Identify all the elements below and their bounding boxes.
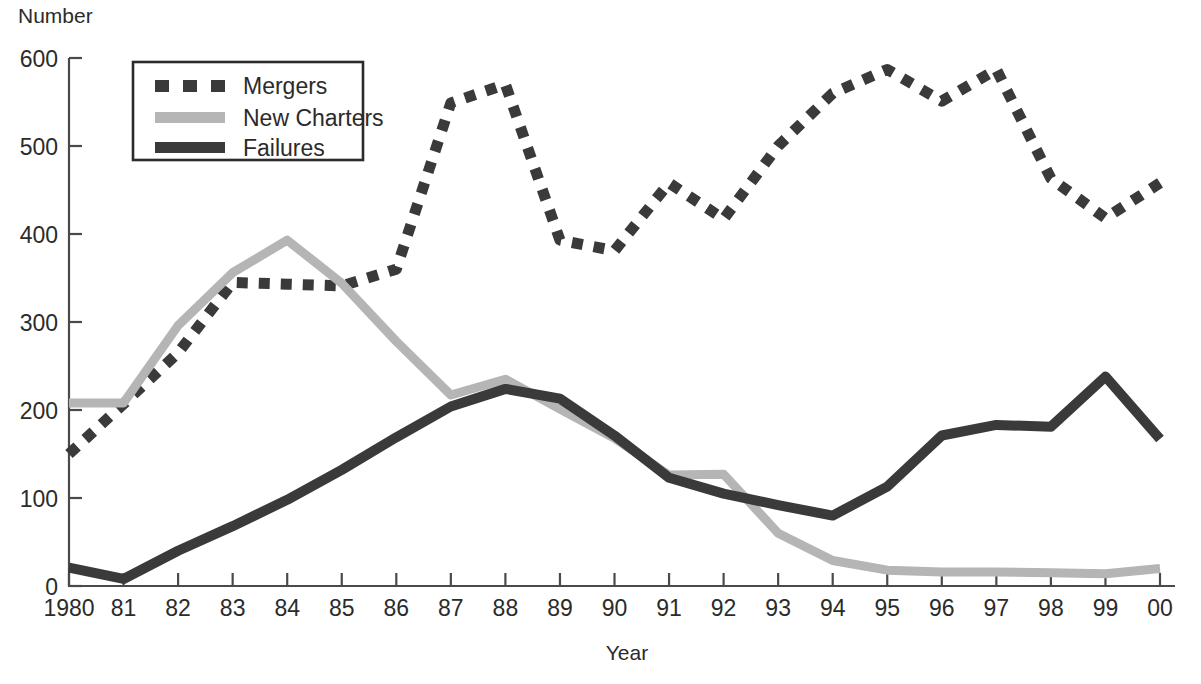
y-tick-label: 500 bbox=[20, 134, 58, 160]
x-tick-label: 1980 bbox=[43, 595, 94, 621]
x-tick-label: 87 bbox=[438, 595, 464, 621]
x-tick-label: 97 bbox=[984, 595, 1010, 621]
y-tick-label: 100 bbox=[20, 486, 58, 512]
y-axis-tick-labels: 0100200300400500600 bbox=[20, 46, 58, 600]
y-axis-ticks bbox=[69, 58, 82, 586]
chart-container: Number 0100200300400500600 1980818283848… bbox=[0, 0, 1201, 684]
x-tick-label: 95 bbox=[874, 595, 900, 621]
y-tick-label: 300 bbox=[20, 310, 58, 336]
legend-label-mergers: Mergers bbox=[243, 73, 327, 99]
legend-label-failures: Failures bbox=[243, 135, 325, 161]
x-tick-label: 88 bbox=[493, 595, 519, 621]
x-axis-title: Year bbox=[606, 641, 648, 664]
series-line-failures bbox=[69, 377, 1160, 579]
chart-legend: MergersNew ChartersFailures bbox=[133, 62, 384, 161]
x-tick-label: 94 bbox=[820, 595, 846, 621]
legend-swatch-dashed bbox=[183, 80, 197, 92]
x-tick-label: 96 bbox=[929, 595, 955, 621]
x-tick-label: 86 bbox=[384, 595, 410, 621]
legend-swatch-dashed bbox=[211, 80, 225, 92]
legend-swatch-dashed bbox=[155, 80, 169, 92]
x-tick-label: 93 bbox=[765, 595, 791, 621]
x-tick-label: 91 bbox=[656, 595, 682, 621]
x-tick-label: 81 bbox=[111, 595, 137, 621]
x-tick-label: 98 bbox=[1038, 595, 1064, 621]
legend-swatch-failures bbox=[155, 142, 225, 153]
line-chart: Number 0100200300400500600 1980818283848… bbox=[0, 0, 1201, 684]
x-tick-label: 85 bbox=[329, 595, 355, 621]
y-tick-label: 600 bbox=[20, 46, 58, 72]
x-tick-label: 82 bbox=[165, 595, 191, 621]
x-tick-label: 83 bbox=[220, 595, 246, 621]
legend-label-new-charters: New Charters bbox=[243, 105, 384, 131]
y-axis-title: Number bbox=[18, 4, 93, 27]
y-tick-label: 400 bbox=[20, 222, 58, 248]
y-tick-label: 200 bbox=[20, 398, 58, 424]
x-tick-label: 99 bbox=[1093, 595, 1119, 621]
x-tick-label: 89 bbox=[547, 595, 573, 621]
x-axis-tick-labels: 1980818283848586878889909192939495969798… bbox=[43, 595, 1172, 621]
x-tick-label: 84 bbox=[274, 595, 300, 621]
x-tick-label: 00 bbox=[1147, 595, 1173, 621]
legend-swatch-new-charters bbox=[155, 112, 225, 123]
x-tick-label: 92 bbox=[711, 595, 737, 621]
x-tick-label: 90 bbox=[602, 595, 628, 621]
